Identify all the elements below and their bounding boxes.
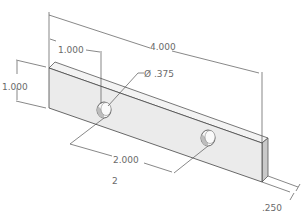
isometric-part-drawing: 4.000 1.000 1.000 Ø .375 2.000 .250 2	[0, 0, 304, 221]
side-face	[262, 138, 268, 182]
hole-right	[201, 130, 215, 146]
part-label: 2	[112, 176, 118, 186]
dim-height: 1.000	[2, 82, 28, 92]
dim-hole-spacing: 2.000	[113, 155, 139, 165]
dim-hole-offset: 1.000	[58, 45, 84, 55]
dim-overall-length: 4.000	[150, 42, 176, 52]
dim-hole-diameter: Ø .375	[144, 69, 174, 79]
plate-body	[49, 62, 268, 182]
hole-left	[97, 102, 111, 118]
dim-thickness: .250	[262, 203, 282, 213]
